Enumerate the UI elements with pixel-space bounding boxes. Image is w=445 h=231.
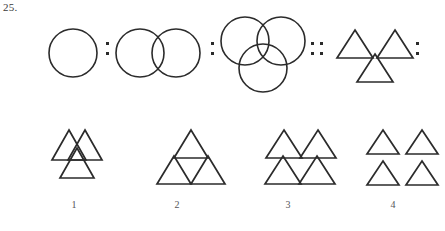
prompt-term-1-single-circle [47, 27, 101, 81]
option-4-graphic[interactable] [365, 128, 441, 190]
prompt-term-4-three-separate-triangles [333, 24, 423, 86]
colon-dot [320, 52, 323, 55]
option-2-graphic[interactable] [156, 128, 226, 186]
colon-dot [311, 42, 314, 45]
puzzle-page: 25. [0, 0, 445, 231]
option-2-label[interactable]: 2 [165, 199, 189, 210]
colon-dot [311, 52, 314, 55]
separator-colon-3 [414, 40, 422, 60]
separator-colon-1 [104, 40, 112, 60]
colon-dot [320, 42, 323, 45]
option-1-label[interactable]: 1 [62, 199, 86, 210]
colon-dot [211, 52, 214, 55]
question-number: 25. [3, 1, 17, 13]
colon-dot [106, 42, 109, 45]
colon-dot [211, 42, 214, 45]
prompt-term-2-two-overlapping-circles [114, 27, 206, 81]
colon-dot [416, 42, 419, 45]
option-3-label[interactable]: 3 [276, 199, 300, 210]
option-3-graphic[interactable] [262, 128, 340, 188]
prompt-term-3-three-overlapping-circles [219, 15, 309, 95]
colon-dot [106, 52, 109, 55]
option-4-label[interactable]: 4 [381, 199, 405, 210]
separator-colon-2 [209, 40, 217, 60]
colon-dot [416, 52, 419, 55]
separator-double-colon [310, 40, 328, 60]
option-1-graphic[interactable] [50, 126, 112, 188]
